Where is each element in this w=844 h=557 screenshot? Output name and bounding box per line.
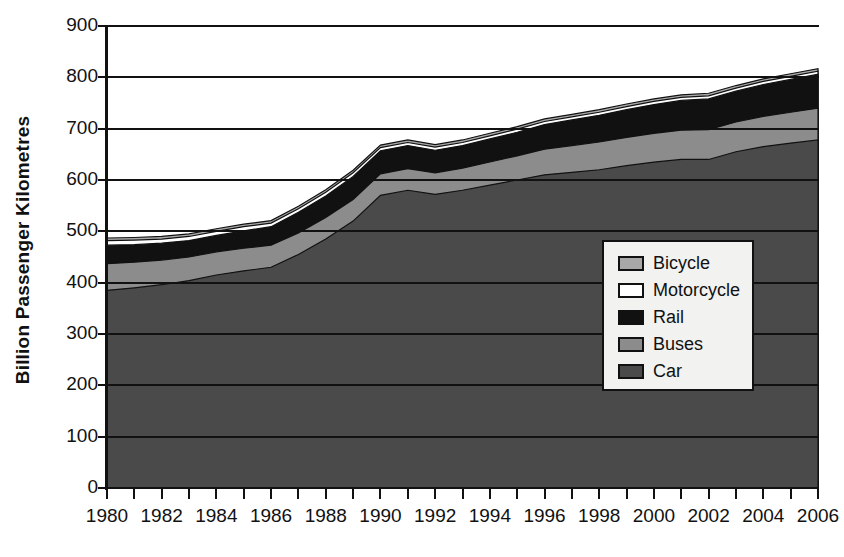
x-axis-tick-label: 1990 (359, 505, 401, 527)
x-axis-tick-mark (434, 489, 436, 499)
y-axis-tick-label: 900 (42, 14, 98, 36)
y-axis-tick-label: 800 (42, 65, 98, 87)
x-axis-tick-mark (133, 489, 135, 499)
gridline (107, 76, 819, 78)
x-axis-tick-mark (708, 489, 710, 499)
x-axis-tick-mark (188, 489, 190, 499)
gridline (107, 436, 819, 438)
x-axis-tick-mark (817, 489, 819, 499)
legend-item-label: Motorcycle (653, 280, 740, 301)
y-axis-tick-label: 500 (42, 219, 98, 241)
y-axis-tick-label: 200 (42, 373, 98, 395)
y-axis-tick-labels: 0100200300400500600700800900 (36, 0, 98, 557)
x-axis-tick-label: 1988 (305, 505, 347, 527)
legend-swatch-icon (618, 310, 644, 325)
x-axis-tick-mark (735, 489, 737, 499)
x-axis-tick-label: 2006 (797, 505, 839, 527)
x-axis-tick-label: 1998 (578, 505, 620, 527)
y-axis-tick-label: 300 (42, 322, 98, 344)
x-axis-tick-label: 1992 (414, 505, 456, 527)
x-axis-tick-mark (352, 489, 354, 499)
x-axis-tick-mark (215, 489, 217, 499)
x-axis-tick-label: 2000 (633, 505, 675, 527)
stacked-area-chart: Billion Passenger Kilometres 01002003004… (0, 0, 844, 557)
y-axis-tick-label: 700 (42, 117, 98, 139)
legend-swatch-icon (618, 256, 644, 271)
gridline (107, 230, 819, 232)
x-axis-tick-mark (462, 489, 464, 499)
gridline (107, 128, 819, 130)
legend-item: Bicycle (618, 250, 752, 277)
x-axis-tick-mark (325, 489, 327, 499)
y-axis-tick-label: 0 (42, 476, 98, 498)
x-axis-tick-mark (379, 489, 381, 499)
x-axis-tick-mark (516, 489, 518, 499)
x-axis-tick-mark (544, 489, 546, 499)
legend-item: Rail (618, 304, 752, 331)
legend-item: Motorcycle (618, 277, 752, 304)
legend-item-label: Car (653, 361, 682, 382)
x-axis-tick-mark (161, 489, 163, 499)
x-axis-tick-mark (407, 489, 409, 499)
x-axis-tick-mark (270, 489, 272, 499)
x-axis-tick-mark (297, 489, 299, 499)
x-axis-tick-mark (680, 489, 682, 499)
y-axis-tick-label: 100 (42, 425, 98, 447)
x-axis-tick-label: 1980 (86, 505, 128, 527)
x-axis-tick-mark (626, 489, 628, 499)
x-axis-tick-mark (571, 489, 573, 499)
x-axis-tick-mark (243, 489, 245, 499)
x-axis-tick-mark (598, 489, 600, 499)
x-axis-tick-label: 1994 (469, 505, 511, 527)
x-axis-tick-label: 1982 (141, 505, 183, 527)
legend-swatch-icon (618, 337, 644, 352)
x-axis-tick-label: 2004 (742, 505, 784, 527)
legend-item-label: Bicycle (653, 253, 710, 274)
legend-item: Buses (618, 331, 752, 358)
x-axis-tick-label: 2002 (687, 505, 729, 527)
x-axis-tick-label: 1984 (195, 505, 237, 527)
gridline (107, 179, 819, 181)
x-axis-tick-mark (762, 489, 764, 499)
legend-item-label: Rail (653, 307, 684, 328)
legend-item: Car (618, 358, 752, 385)
x-axis-tick-mark (489, 489, 491, 499)
legend: BicycleMotorcycleRailBusesCar (602, 240, 754, 391)
x-axis-tick-mark (653, 489, 655, 499)
legend-swatch-icon (618, 364, 644, 379)
gridline (107, 25, 819, 27)
x-axis-tick-label: 1996 (523, 505, 565, 527)
y-axis-tick-label: 600 (42, 168, 98, 190)
y-axis-tick-label: 400 (42, 271, 98, 293)
x-axis-tick-mark (790, 489, 792, 499)
x-axis-tick-mark (106, 489, 108, 499)
x-axis-tick-label: 1986 (250, 505, 292, 527)
legend-swatch-icon (618, 283, 644, 298)
legend-item-label: Buses (653, 334, 703, 355)
y-axis-line (105, 26, 108, 490)
